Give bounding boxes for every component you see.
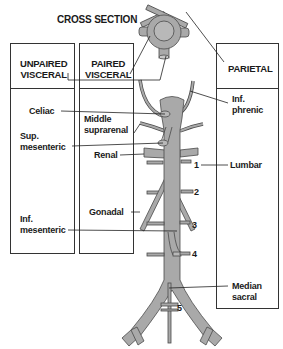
label-inf-mesenteric: Inf. mesenteric <box>20 214 66 236</box>
lumbar-number-3: 3 <box>192 220 197 231</box>
lumbar-number-4: 4 <box>192 249 197 260</box>
label-middle-suprarenal: Middle suprarenal <box>84 114 128 136</box>
label-lumbar: Lumbar <box>230 160 262 171</box>
lumbar-number-2: 2 <box>194 187 199 198</box>
unpaired-visceral-line1: UNPAIRED <box>20 58 67 69</box>
paired-visceral-line1: PAIRED <box>85 58 131 69</box>
lumbar-number-1: 1 <box>194 160 199 171</box>
cross-section-title: CROSS SECTION <box>57 14 137 25</box>
label-sup-mesenteric: Sup. mesenteric <box>20 131 66 153</box>
paired-visceral-line2: VISCERAL <box>85 69 131 80</box>
label-gonadal: Gonadal <box>89 207 124 218</box>
label-celiac: Celiac <box>29 106 54 117</box>
label-renal: Renal <box>94 150 118 161</box>
parietal-header: PARIETAL <box>228 63 273 74</box>
lumbar-number-5: 5 <box>177 303 182 314</box>
cross-section-icon <box>139 5 189 59</box>
label-median-sacral: Median sacral <box>232 281 262 303</box>
paired-visceral-header: PAIRED VISCERAL <box>85 58 131 80</box>
label-inf-phrenic: Inf. phrenic <box>232 94 263 116</box>
unpaired-visceral-line2: VISCERAL <box>20 69 67 80</box>
unpaired-visceral-header: UNPAIRED VISCERAL <box>20 58 67 80</box>
